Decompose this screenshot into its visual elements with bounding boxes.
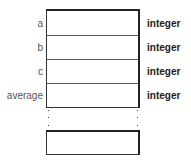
- type-label-a: integer: [147, 18, 180, 29]
- cell-divider: [47, 35, 138, 36]
- variable-label-a: a: [37, 18, 43, 29]
- cell-divider: [47, 59, 138, 60]
- memory-cell-last: [46, 130, 140, 155]
- cell-divider: [47, 83, 138, 84]
- variable-label-c: c: [38, 66, 43, 77]
- memory-cells: [46, 9, 140, 108]
- type-label-c: integer: [147, 66, 180, 77]
- variable-label-average: average: [7, 90, 43, 101]
- type-label-average: integer: [147, 90, 180, 101]
- variable-label-b: b: [37, 42, 43, 53]
- type-label-b: integer: [147, 42, 180, 53]
